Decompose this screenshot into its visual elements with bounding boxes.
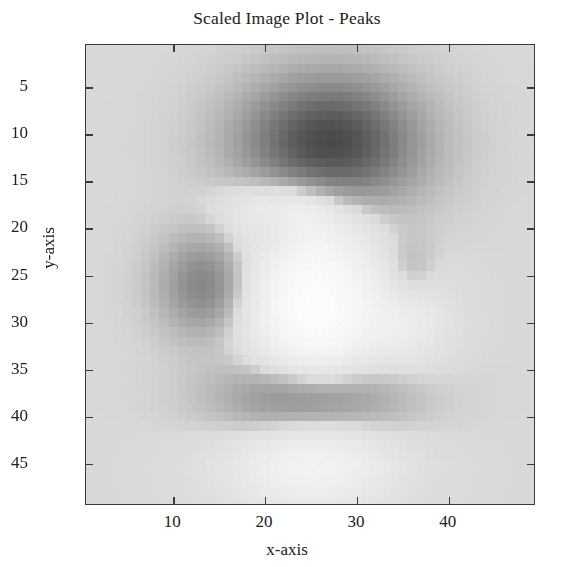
y-axis-tick [527, 417, 534, 418]
x-axis-tick [357, 45, 358, 52]
y-axis-tick [527, 370, 534, 371]
y-axis-tick [527, 87, 534, 88]
page-title: Scaled Image Plot - Peaks [0, 8, 574, 29]
y-axis-tick [86, 370, 93, 371]
x-axis-tick [173, 45, 174, 52]
y-axis-tick [527, 134, 534, 135]
plot-axes-area [85, 44, 535, 505]
y-axis-tick [86, 87, 93, 88]
y-axis-tick [86, 228, 93, 229]
figure-canvas: Scaled Image Plot - Peaks 51015202530354… [0, 0, 574, 567]
x-axis-tick [265, 497, 266, 504]
x-axis-tick-label: 40 [418, 512, 478, 532]
y-axis-tick-label: 5 [0, 76, 28, 96]
y-axis-tick [527, 276, 534, 277]
x-axis-tick-label: 30 [326, 512, 386, 532]
y-axis-tick-label: 10 [0, 123, 28, 143]
x-axis-tick-label: 20 [234, 512, 294, 532]
y-axis-tick-label: 15 [0, 170, 28, 190]
y-axis-tick [86, 323, 93, 324]
x-axis-label: x-axis [0, 540, 574, 560]
y-axis-tick-label: 20 [0, 217, 28, 237]
y-axis-label: y-axis [39, 188, 59, 308]
y-axis-tick-label: 35 [0, 359, 28, 379]
y-axis-tick [86, 276, 93, 277]
y-axis-tick-label: 25 [0, 265, 28, 285]
y-axis-tick [527, 323, 534, 324]
y-axis-tick [86, 181, 93, 182]
y-axis-tick [527, 464, 534, 465]
x-axis-tick [265, 45, 266, 52]
y-axis-tick-label: 40 [0, 406, 28, 426]
x-axis-tick [357, 497, 358, 504]
scaled-image-heatmap [86, 45, 535, 505]
y-axis-tick [527, 228, 534, 229]
x-axis-tick [449, 45, 450, 52]
y-axis-tick [527, 181, 534, 182]
y-axis-tick [86, 417, 93, 418]
x-axis-tick-label: 10 [142, 512, 202, 532]
y-axis-tick-label: 30 [0, 312, 28, 332]
y-axis-tick-label: 45 [0, 453, 28, 473]
y-axis-tick [86, 464, 93, 465]
y-axis-tick [86, 134, 93, 135]
x-axis-tick [449, 497, 450, 504]
x-axis-tick [173, 497, 174, 504]
